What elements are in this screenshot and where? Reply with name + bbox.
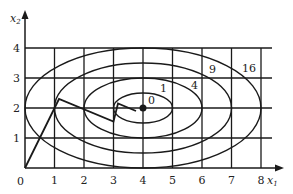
x-tick-6: 6 bbox=[199, 174, 206, 187]
x-axis-arrow-icon bbox=[275, 165, 284, 172]
descent-path bbox=[25, 99, 136, 168]
contour-diagram: 0 1 4 9 16 0 1 2 3 4 5 6 7 8 1 2 3 4 x1 … bbox=[0, 0, 293, 194]
x-tick-4: 4 bbox=[140, 174, 147, 187]
x-tick-8: 8 bbox=[258, 174, 265, 187]
y-tick-3: 3 bbox=[13, 72, 20, 85]
x-tick-labels: 0 1 2 3 4 5 6 7 8 bbox=[17, 174, 265, 188]
axes bbox=[25, 16, 278, 168]
contour-label-16: 16 bbox=[242, 62, 256, 75]
y-tick-1: 1 bbox=[13, 132, 20, 145]
y-tick-labels: 1 2 3 4 bbox=[13, 42, 20, 145]
x-tick-0: 0 bbox=[17, 175, 24, 188]
contour-label-1: 1 bbox=[160, 82, 167, 95]
y-tick-4: 4 bbox=[13, 42, 20, 55]
x-tick-5: 5 bbox=[169, 174, 176, 187]
x-tick-1: 1 bbox=[51, 174, 58, 187]
x-tick-7: 7 bbox=[228, 174, 235, 187]
grid bbox=[25, 48, 272, 168]
x-tick-3: 3 bbox=[110, 174, 117, 187]
x-tick-2: 2 bbox=[81, 174, 88, 187]
y-axis-label: x2 bbox=[10, 12, 21, 26]
y-axis-arrow-icon bbox=[22, 10, 29, 19]
contour-label-0: 0 bbox=[148, 94, 155, 107]
y-tick-2: 2 bbox=[13, 102, 20, 115]
minimum-point bbox=[140, 105, 147, 112]
contour-label-9: 9 bbox=[209, 63, 216, 76]
x-axis-label: x1 bbox=[267, 174, 278, 188]
contour-label-4: 4 bbox=[191, 79, 198, 92]
